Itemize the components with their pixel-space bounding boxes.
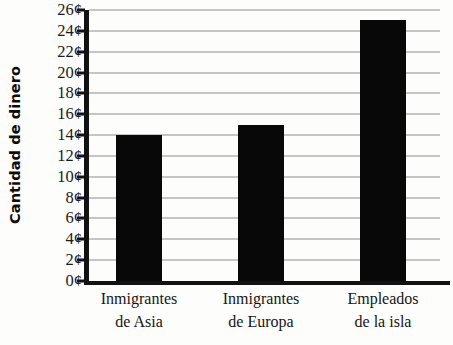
x-axis-category-label-line: de Europa	[201, 311, 321, 334]
plot-area	[84, 0, 453, 290]
y-axis-tick-mark	[77, 259, 85, 262]
y-axis-tick-mark	[77, 29, 85, 32]
bar	[116, 135, 162, 281]
y-axis-tick-mark	[77, 92, 85, 95]
y-axis-tick-mark	[77, 9, 85, 12]
x-axis-category-label-line: de la isla	[323, 311, 443, 334]
x-axis-category-label-line: de Asia	[79, 311, 199, 334]
y-axis-tick-mark	[77, 280, 85, 283]
bar-chart-figure: Cantidad de dinero 0¢2¢4¢6¢8¢10¢12¢14¢16…	[0, 0, 453, 345]
y-axis-tick-mark	[77, 196, 85, 199]
y-axis-tick-mark	[77, 113, 85, 116]
y-axis-tick-mark	[77, 154, 85, 157]
x-axis-category-label-line: Empleados	[323, 288, 443, 311]
y-axis-tick-mark	[77, 50, 85, 53]
bar	[238, 125, 284, 281]
y-axis-title-container: Cantidad de dinero	[0, 0, 30, 290]
x-axis-category-label-line: Inmigrantes	[79, 288, 199, 311]
x-axis-category-label: Inmigrantesde Asia	[79, 288, 199, 333]
bar	[360, 20, 406, 281]
y-axis-title: Cantidad de dinero	[7, 66, 23, 224]
y-axis-tick-mark	[77, 175, 85, 178]
x-axis-line	[84, 281, 450, 285]
y-axis-tick-mark	[77, 238, 85, 241]
x-axis-category-label: Inmigrantesde Europa	[201, 288, 321, 333]
x-axis-category-label-line: Inmigrantes	[201, 288, 321, 311]
gridline	[89, 10, 440, 11]
y-axis-tick-mark	[77, 217, 85, 220]
y-axis-tick-labels: 0¢2¢4¢6¢8¢10¢12¢14¢16¢18¢20¢22¢24¢26¢	[30, 0, 84, 290]
y-axis-tick-mark	[77, 71, 85, 74]
x-axis-category-labels: Inmigrantesde AsiaInmigrantesde EuropaEm…	[84, 288, 453, 345]
x-axis-category-label: Empleadosde la isla	[323, 288, 443, 333]
y-axis-tick-mark	[77, 134, 85, 137]
